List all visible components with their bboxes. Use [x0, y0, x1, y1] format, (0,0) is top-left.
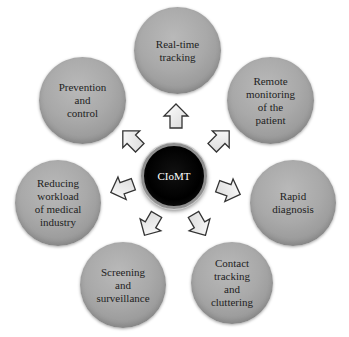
node-text-line: diagnosis — [272, 203, 314, 216]
node-text-line: and — [59, 94, 107, 107]
center-hub-ciomt: CIoMT — [141, 143, 207, 209]
node-text-line: Real-time — [156, 38, 199, 51]
arrow-right-icon — [214, 175, 245, 206]
node-prevention-control: Prevention and control — [39, 57, 126, 144]
node-text-line: cluttering — [211, 296, 253, 309]
node-text-line: of medical — [35, 203, 82, 216]
node-text-line: Prevention — [59, 81, 107, 94]
node-text-line: Reducing — [35, 177, 82, 190]
node-screening-surveillance: Screening and surveillance — [80, 242, 166, 328]
node-text-line: and — [96, 279, 149, 292]
node-remote-monitoring: Remote monitoring of the patient — [227, 57, 314, 144]
node-text-line: tracking — [156, 51, 199, 64]
node-text-line: Screening — [96, 266, 149, 279]
node-text-line: Remote — [246, 75, 295, 88]
node-text-line: workload — [35, 190, 82, 203]
arrow-lower-right-icon — [183, 208, 216, 241]
node-text-line: patient — [246, 114, 295, 127]
arrow-lower-left-icon — [134, 208, 167, 241]
node-text-line: Rapid — [272, 190, 314, 203]
node-text-line: surveillance — [96, 292, 149, 305]
center-label: CIoMT — [158, 170, 191, 182]
node-rapid-diagnosis: Rapid diagnosis — [250, 160, 336, 246]
node-text-line: and — [211, 283, 253, 296]
node-text-line: control — [59, 107, 107, 120]
node-text-line: of the — [246, 101, 295, 114]
arrow-left-icon — [107, 173, 138, 204]
node-text-line: tracking — [211, 270, 253, 283]
arrow-upper-right-icon — [204, 122, 238, 156]
node-reducing-workload: Reducing workload of medical industry — [15, 160, 101, 246]
arrow-upper-left-icon — [114, 122, 148, 156]
node-text-line: industry — [35, 216, 82, 229]
node-real-time-tracking: Real-time tracking — [134, 7, 221, 94]
node-text-line: monitoring — [246, 88, 295, 101]
node-contact-tracking: Contact tracking and cluttering — [191, 242, 273, 324]
arrow-up-icon — [164, 104, 188, 128]
node-text-line: Contact — [211, 257, 253, 270]
